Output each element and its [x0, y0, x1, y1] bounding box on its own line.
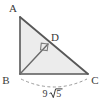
triangle-diagram-svg: A B C D 9 5	[0, 0, 107, 103]
vertex-label-b: B	[2, 74, 9, 86]
vertex-label-a: A	[9, 2, 17, 14]
side-length-radicand-bc: 5	[56, 88, 61, 99]
vertex-label-c: C	[91, 74, 98, 86]
measurement-guide-arc-bc	[21, 79, 87, 87]
side-length-coefficient-bc: 9	[43, 88, 48, 99]
geometry-figure: A B C D 9 5	[0, 0, 107, 103]
vertex-label-d: D	[51, 31, 59, 43]
